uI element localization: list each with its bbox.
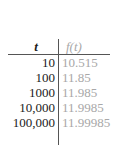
t-value: 10 bbox=[8, 55, 55, 70]
f-value: 11.9985 bbox=[62, 100, 112, 115]
table-row: 10,000 11.9985 bbox=[8, 100, 110, 115]
f-value: 11.85 bbox=[62, 70, 112, 85]
t-value: 100,000 bbox=[8, 115, 55, 130]
header-f-of-t: f(t) bbox=[66, 39, 116, 54]
header-t: t bbox=[16, 39, 56, 54]
table-row: 100,000 11.99985 bbox=[8, 115, 110, 130]
values-table: t f(t) 10 10.515 100 11.85 1000 11.985 1… bbox=[8, 39, 110, 130]
f-value: 10.515 bbox=[62, 55, 112, 70]
header-row: t f(t) bbox=[8, 39, 110, 54]
t-value: 100 bbox=[8, 70, 55, 85]
f-value: 11.99985 bbox=[62, 115, 112, 130]
table-row: 100 11.85 bbox=[8, 70, 110, 85]
table-row: 1000 11.985 bbox=[8, 85, 110, 100]
f-value: 11.985 bbox=[62, 85, 112, 100]
t-value: 1000 bbox=[8, 85, 55, 100]
table-row: 10 10.515 bbox=[8, 55, 110, 70]
t-value: 10,000 bbox=[8, 100, 55, 115]
